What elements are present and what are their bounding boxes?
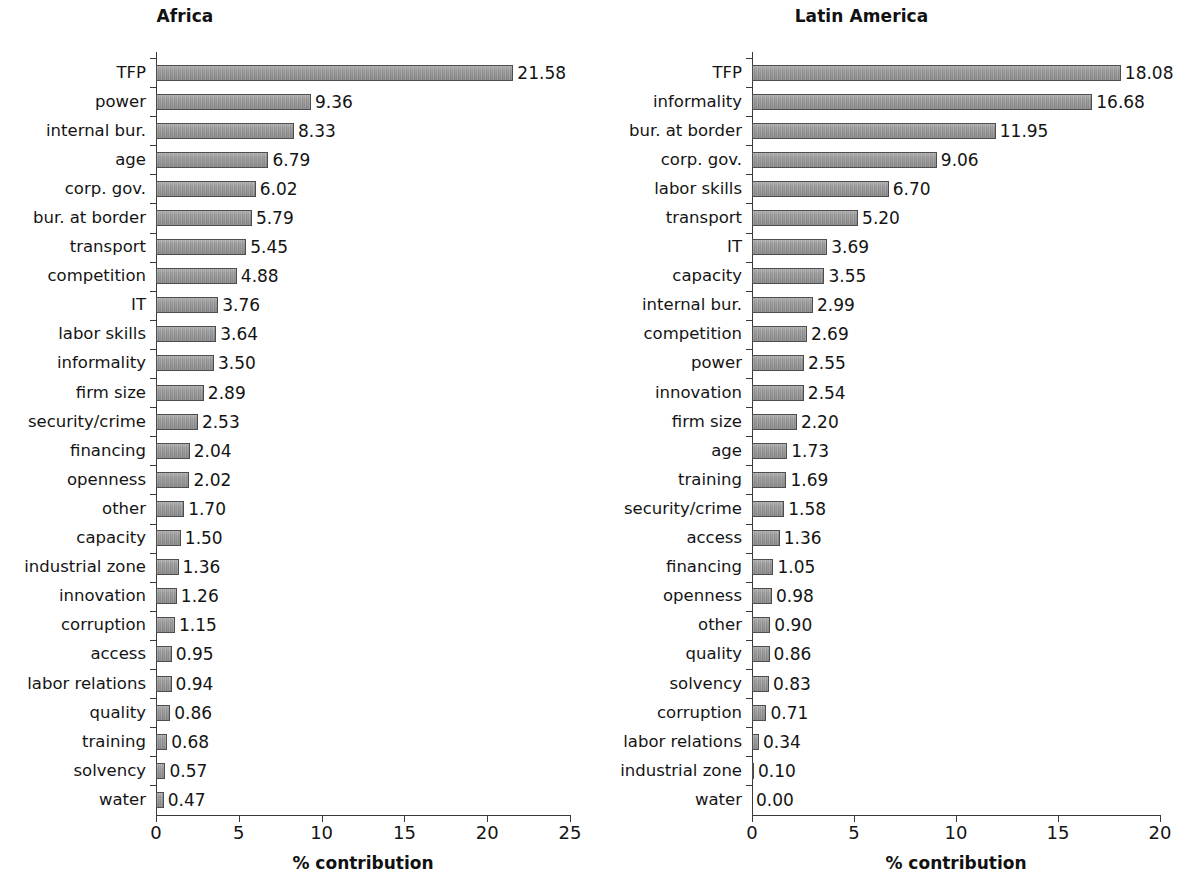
bar	[156, 646, 172, 662]
y-axis-tick	[150, 407, 156, 408]
y-axis-tick	[150, 349, 156, 350]
x-axis-tick	[854, 815, 855, 822]
bar	[752, 617, 770, 633]
bar-row: financing1.05	[752, 553, 1160, 582]
bar	[752, 588, 772, 604]
y-axis-tick	[150, 174, 156, 175]
bar-row: solvency0.57	[156, 756, 570, 785]
category-label: corp. gov.	[661, 152, 742, 169]
bar-value-label: 3.69	[831, 239, 869, 256]
bar-value-label: 3.64	[220, 326, 258, 343]
bar-row: water0.47	[156, 785, 570, 814]
bar-row: capacity1.50	[156, 524, 570, 553]
category-label: labor relations	[623, 733, 742, 750]
bar	[752, 152, 937, 168]
y-axis-tick	[150, 640, 156, 641]
y-axis-tick	[150, 320, 156, 321]
category-label: labor skills	[58, 326, 146, 343]
bar-value-label: 5.79	[256, 210, 294, 227]
bar-row: competition2.69	[752, 320, 1160, 349]
y-axis-tick	[150, 494, 156, 495]
bar-row: IT3.69	[752, 233, 1160, 262]
bar	[752, 559, 773, 575]
y-axis-tick	[746, 611, 752, 612]
y-axis-tick	[746, 291, 752, 292]
bar-value-label: 0.86	[774, 646, 812, 663]
bar-row: openness2.02	[156, 465, 570, 494]
bar	[156, 210, 252, 226]
bar-row: corp. gov.6.02	[156, 174, 570, 203]
y-axis-tick	[746, 756, 752, 757]
bar	[156, 181, 256, 197]
y-axis-tick	[746, 87, 752, 88]
category-label: water	[695, 792, 742, 809]
bar-row: corruption1.15	[156, 611, 570, 640]
bar-value-label: 3.76	[222, 297, 260, 314]
y-axis-tick	[746, 436, 752, 437]
x-axis-tick	[752, 815, 753, 822]
bar-value-label: 9.06	[941, 151, 979, 168]
bar	[156, 443, 190, 459]
y-axis-tick	[746, 553, 752, 554]
y-axis-tick	[150, 524, 156, 525]
bar-value-label: 0.47	[168, 791, 206, 808]
bar-value-label: 21.58	[517, 64, 566, 81]
bar-rows-latin-america: TFP18.08informality16.68bur. at border11…	[752, 58, 1160, 815]
y-axis-tick	[746, 494, 752, 495]
bar-row: TFP18.08	[752, 58, 1160, 87]
bar	[752, 676, 769, 692]
bar	[156, 268, 237, 284]
bar-row: internal bur.8.33	[156, 116, 570, 145]
category-label: competition	[47, 268, 146, 285]
bar	[752, 210, 858, 226]
category-label: labor skills	[654, 181, 742, 198]
x-axis-title-africa: % contribution	[292, 853, 433, 873]
category-label: solvency	[670, 675, 743, 692]
x-axis-tick	[956, 815, 957, 822]
bar	[156, 617, 175, 633]
category-label: training	[678, 472, 742, 489]
category-label: power	[691, 355, 742, 372]
category-label: transport	[666, 210, 742, 227]
bar-row: corruption0.71	[752, 698, 1160, 727]
y-axis-tick	[150, 291, 156, 292]
bar-value-label: 0.68	[171, 733, 209, 750]
category-label: IT	[131, 297, 146, 314]
y-axis-tick	[150, 785, 156, 786]
bar-value-label: 1.36	[183, 559, 221, 576]
bar-row: age1.73	[752, 436, 1160, 465]
bar-value-label: 1.15	[179, 617, 217, 634]
bar-row: corp. gov.9.06	[752, 145, 1160, 174]
bar-value-label: 4.88	[241, 268, 279, 285]
category-label: age	[711, 443, 742, 460]
panel-title-latin-america: Latin America	[568, 6, 1155, 26]
category-label: age	[115, 152, 146, 169]
bar-value-label: 2.89	[208, 384, 246, 401]
bar-row: capacity3.55	[752, 262, 1160, 291]
y-axis-tick	[746, 407, 752, 408]
category-label: solvency	[74, 763, 147, 780]
bar	[156, 705, 170, 721]
bar-value-label: 1.73	[791, 442, 829, 459]
y-axis-tick	[746, 640, 752, 641]
category-label: labor relations	[27, 675, 146, 692]
category-label: informality	[653, 93, 742, 110]
y-axis-tick	[746, 174, 752, 175]
category-label: transport	[70, 239, 146, 256]
bar	[752, 355, 804, 371]
y-axis-tick	[150, 203, 156, 204]
y-axis-tick	[150, 87, 156, 88]
y-axis-tick	[150, 233, 156, 234]
y-axis-tick	[150, 669, 156, 670]
bar	[156, 94, 311, 110]
bar	[752, 646, 770, 662]
bar	[156, 326, 216, 342]
category-label: access	[90, 646, 146, 663]
category-label: water	[99, 792, 146, 809]
bar-row: training1.69	[752, 465, 1160, 494]
category-label: IT	[727, 239, 742, 256]
bar-value-label: 1.70	[188, 500, 226, 517]
y-axis-tick	[150, 756, 156, 757]
bar	[752, 443, 787, 459]
bar	[156, 239, 246, 255]
